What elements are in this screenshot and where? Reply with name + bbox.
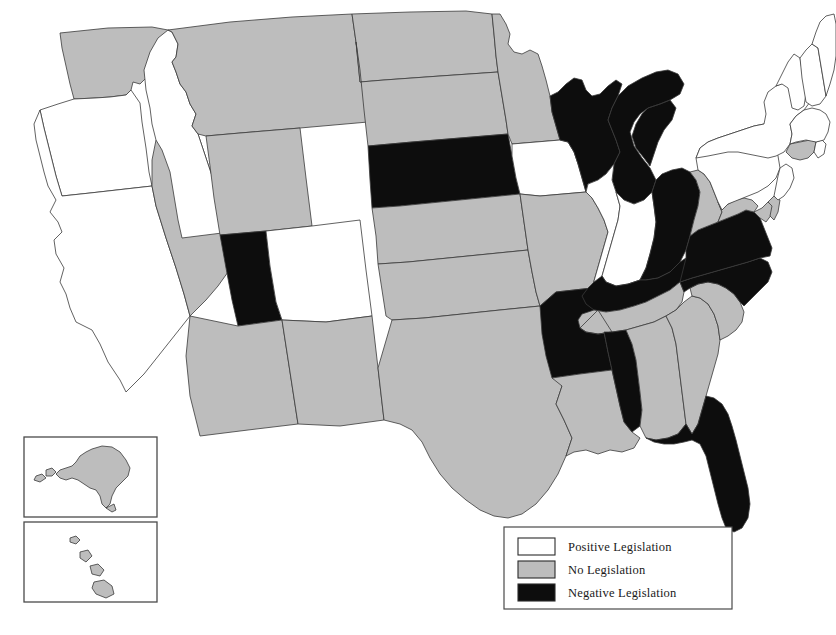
legend-label-negative: Negative Legislation xyxy=(568,586,677,600)
legend-swatch-positive xyxy=(518,538,555,555)
map-legend: Positive Legislation No Legislation Nega… xyxy=(504,527,732,609)
state-RI xyxy=(814,140,826,158)
legend-label-positive: Positive Legislation xyxy=(568,540,672,554)
map-svg: Positive Legislation No Legislation Nega… xyxy=(0,0,836,635)
state-NM xyxy=(282,316,384,426)
legend-label-none: No Legislation xyxy=(568,563,646,577)
us-legislation-map: Positive Legislation No Legislation Nega… xyxy=(0,0,836,635)
hawaii-inset-box xyxy=(24,522,157,602)
state-WY xyxy=(206,128,312,235)
state-CO xyxy=(266,220,372,322)
state-ND xyxy=(352,11,498,82)
legend-swatch-none xyxy=(518,561,555,578)
legend-swatch-negative xyxy=(518,584,555,601)
state-AZ xyxy=(186,316,298,436)
state-MT xyxy=(168,14,368,136)
